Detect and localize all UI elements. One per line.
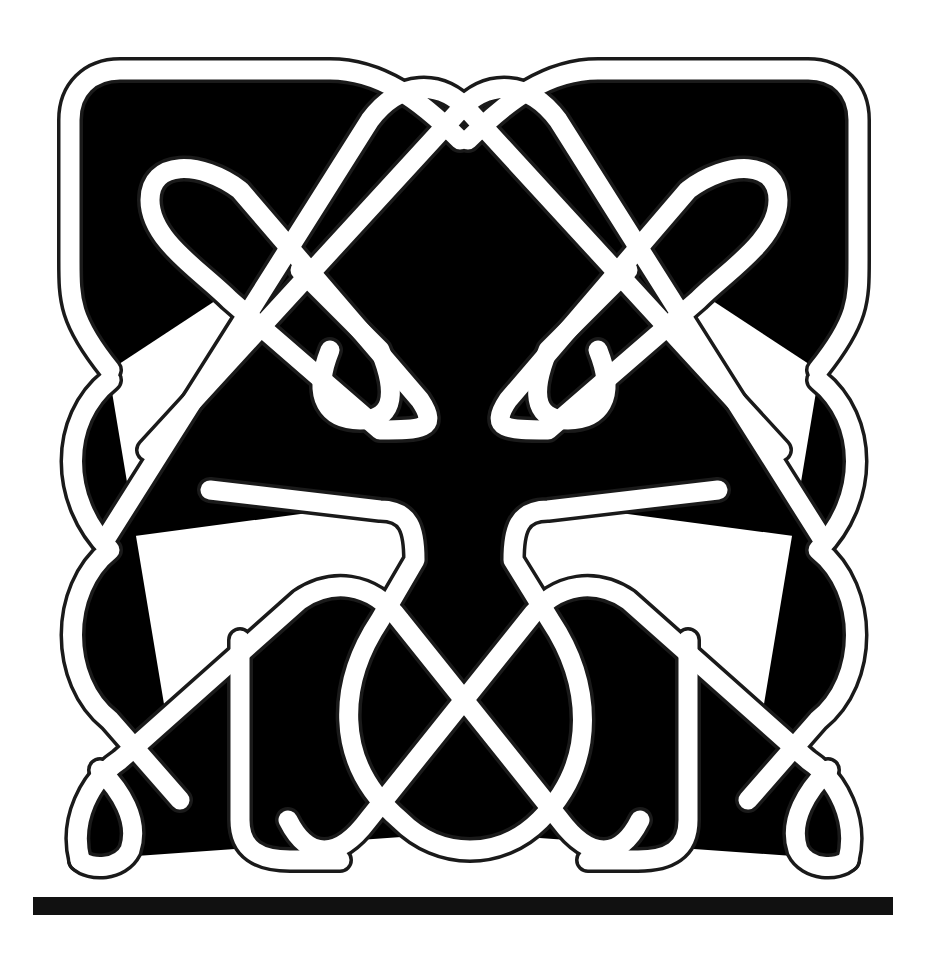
- baseline-bar: [33, 897, 893, 915]
- celtic-knot: [0, 0, 928, 957]
